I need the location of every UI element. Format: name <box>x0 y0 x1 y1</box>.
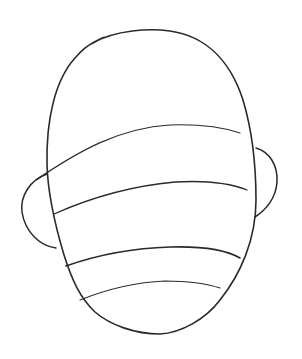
head-sketch <box>0 0 302 359</box>
head-top-stroke <box>92 37 104 43</box>
guide-line-4 <box>80 281 220 300</box>
guide-line-2 <box>54 181 247 214</box>
left-ear <box>22 174 56 248</box>
guide-line-1 <box>36 125 240 180</box>
right-ear <box>255 148 277 217</box>
guide-line-3 <box>66 247 240 266</box>
head-outline <box>47 30 256 334</box>
drawing-canvas <box>0 0 302 359</box>
